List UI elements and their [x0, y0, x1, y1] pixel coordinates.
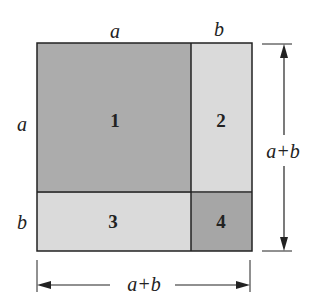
region-4-label: 4 — [216, 211, 226, 233]
bottom-total-label: a+b — [127, 273, 161, 296]
top-label-a: a — [110, 20, 120, 43]
region-3-label: 3 — [108, 211, 118, 233]
region-2-label: 2 — [216, 110, 226, 132]
left-label-a: a — [17, 113, 27, 136]
region-1-label: 1 — [110, 110, 120, 132]
right-total-label: a+b — [266, 140, 300, 163]
top-label-b: b — [214, 18, 224, 41]
left-label-b: b — [17, 211, 27, 234]
diagram-lines — [0, 0, 311, 304]
